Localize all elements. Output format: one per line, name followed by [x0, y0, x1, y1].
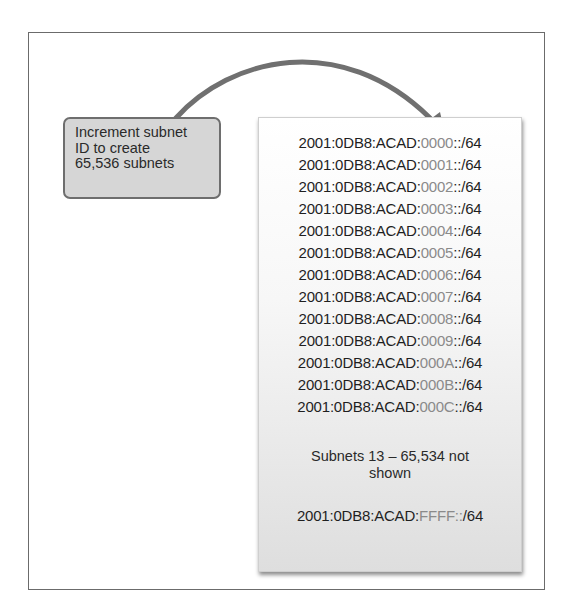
subnet-row: 2001:0DB8:ACAD:0000::/64: [259, 132, 521, 154]
subnet-id: 000C: [419, 398, 454, 415]
subnet-prefix: 2001:0DB8:ACAD:: [299, 332, 421, 349]
subnet-suffix: ::/64: [453, 310, 481, 327]
subnet-prefix: 2001:0DB8:ACAD:: [299, 266, 421, 283]
subnet-row: 2001:0DB8:ACAD:000A::/64: [259, 352, 521, 374]
subnet-row: 2001:0DB8:ACAD:0008::/64: [259, 308, 521, 330]
subnet-id: 0008: [421, 310, 454, 327]
subnet-id: 0006: [421, 266, 454, 283]
subnet-row: 2001:0DB8:ACAD:000C::/64: [259, 396, 521, 418]
subnet-list: 2001:0DB8:ACAD:0000::/64 2001:0DB8:ACAD:…: [259, 132, 521, 418]
subnet-prefix: 2001:0DB8:ACAD:: [299, 156, 421, 173]
subnet-suffix: ::/64: [453, 244, 481, 261]
subnet-row: 2001:0DB8:ACAD:0001::/64: [259, 154, 521, 176]
subnet-id: 0007: [421, 288, 454, 305]
subnet-prefix: 2001:0DB8:ACAD:: [299, 178, 421, 195]
subnet-row: 2001:0DB8:ACAD:0005::/64: [259, 242, 521, 264]
subnet-suffix: ::/64: [453, 222, 481, 239]
callout-line: 65,536 subnets: [75, 156, 219, 172]
subnet-suffix: ::/64: [453, 156, 481, 173]
subnet-id: 0003: [421, 200, 454, 217]
increment-subnet-callout: Increment subnet ID to create 65,536 sub…: [63, 117, 221, 199]
last-subnet-row: 2001:0DB8:ACAD:FFFF::/64: [259, 505, 521, 527]
subnet-suffix: ::/64: [454, 398, 482, 415]
subnet-row: 2001:0DB8:ACAD:0002::/64: [259, 176, 521, 198]
subnet-id: 0001: [421, 156, 454, 173]
subnet-row: 2001:0DB8:ACAD:0003::/64: [259, 198, 521, 220]
subnet-suffix: ::/64: [453, 332, 481, 349]
note-line: shown: [259, 465, 521, 482]
callout-line: Increment subnet: [75, 125, 219, 141]
subnet-id: 0005: [421, 244, 454, 261]
subnet-prefix: 2001:0DB8:ACAD:: [297, 507, 419, 524]
subnet-prefix: 2001:0DB8:ACAD:: [299, 222, 421, 239]
subnet-prefix: 2001:0DB8:ACAD:: [299, 134, 421, 151]
subnets-not-shown-note: Subnets 13 – 65,534 not shown: [259, 448, 521, 482]
subnet-id: 0004: [421, 222, 454, 239]
subnet-id: 0009: [421, 332, 454, 349]
subnet-suffix: ::/64: [454, 354, 482, 371]
subnet-prefix: 2001:0DB8:ACAD:: [299, 200, 421, 217]
subnet-prefix: 2001:0DB8:ACAD:: [297, 398, 419, 415]
subnet-row: 2001:0DB8:ACAD:0009::/64: [259, 330, 521, 352]
subnet-suffix: /64: [463, 507, 483, 524]
subnet-id: FFFF::: [419, 507, 463, 524]
subnet-prefix: 2001:0DB8:ACAD:: [299, 244, 421, 261]
callout-line: ID to create: [75, 141, 219, 157]
subnet-id: 0002: [421, 178, 454, 195]
subnet-list-panel: 2001:0DB8:ACAD:0000::/64 2001:0DB8:ACAD:…: [258, 117, 522, 572]
subnet-suffix: ::/64: [453, 178, 481, 195]
subnet-id: 000B: [420, 376, 454, 393]
subnet-row: 2001:0DB8:ACAD:000B::/64: [259, 374, 521, 396]
subnet-row: 2001:0DB8:ACAD:0006::/64: [259, 264, 521, 286]
subnet-prefix: 2001:0DB8:ACAD:: [298, 354, 420, 371]
subnet-suffix: ::/64: [453, 200, 481, 217]
subnet-prefix: 2001:0DB8:ACAD:: [299, 310, 421, 327]
subnet-row: 2001:0DB8:ACAD:0004::/64: [259, 220, 521, 242]
subnet-prefix: 2001:0DB8:ACAD:: [298, 376, 420, 393]
subnet-id: 000A: [420, 354, 454, 371]
subnet-id: 0000: [421, 134, 454, 151]
subnet-prefix: 2001:0DB8:ACAD:: [299, 288, 421, 305]
subnet-suffix: ::/64: [453, 288, 481, 305]
subnet-suffix: ::/64: [453, 134, 481, 151]
subnet-row: 2001:0DB8:ACAD:0007::/64: [259, 286, 521, 308]
subnet-suffix: ::/64: [453, 266, 481, 283]
subnet-suffix: ::/64: [454, 376, 482, 393]
note-line: Subnets 13 – 65,534 not: [259, 448, 521, 465]
